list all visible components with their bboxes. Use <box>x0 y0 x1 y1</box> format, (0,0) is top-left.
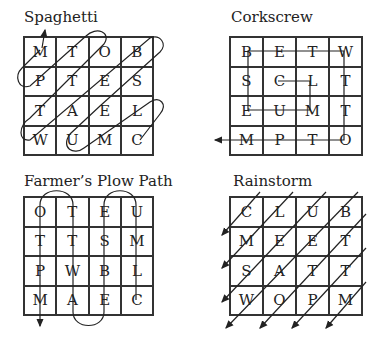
grid-cell: T <box>296 126 329 156</box>
grid-cell: T <box>56 227 88 257</box>
grid-cell: T <box>329 227 362 257</box>
grid-cell: C <box>121 286 153 316</box>
grid-cell: L <box>296 67 329 97</box>
grid-cell: C <box>121 126 153 156</box>
grid-cell: L <box>121 256 153 286</box>
grid-cell: U <box>263 96 296 126</box>
letter-grid-spaghetti: M T O B P T E S T A E L W U M C <box>23 36 154 156</box>
grid-cell: P <box>263 126 296 156</box>
grid-cell: S <box>230 256 263 286</box>
grid-cell: M <box>121 227 153 257</box>
grid-cell: A <box>56 96 88 126</box>
grid-cell: U <box>121 197 153 227</box>
puzzle-title-farmers-plow-path: Farmer’s Plow Path <box>24 172 173 190</box>
grid-cell: W <box>56 256 88 286</box>
grid-cell: M <box>296 96 329 126</box>
grid-cell: U <box>296 197 329 227</box>
grid-cell: O <box>89 37 121 67</box>
grid-cell: B <box>121 37 153 67</box>
grid-cell: M <box>329 286 362 316</box>
grid-cell: E <box>89 67 121 97</box>
grid-cell: B <box>230 37 263 67</box>
grid-cell: E <box>263 37 296 67</box>
grid-cell: C <box>230 197 263 227</box>
grid-cell: E <box>89 96 121 126</box>
grid-cell: M <box>24 37 56 67</box>
grid-cell: T <box>56 67 88 97</box>
grid-cell: O <box>329 126 362 156</box>
grid-cell: O <box>263 286 296 316</box>
grid-cell: M <box>230 227 263 257</box>
puzzle-title-spaghetti: Spaghetti <box>24 8 98 26</box>
grid-cell: T <box>329 96 362 126</box>
grid-cell: A <box>56 286 88 316</box>
grid-cell: E <box>263 227 296 257</box>
letter-grid-rainstorm: C L U B M E E T S A T T W O P M <box>229 196 363 316</box>
grid-cell: W <box>329 37 362 67</box>
grid-cell: E <box>230 96 263 126</box>
grid-cell: T <box>56 197 88 227</box>
grid-cell: T <box>329 67 362 97</box>
grid-cell: C <box>263 67 296 97</box>
grid-cell: E <box>89 286 121 316</box>
grid-cell: T <box>296 256 329 286</box>
grid-cell: M <box>89 126 121 156</box>
grid-cell: M <box>24 286 56 316</box>
grid-cell: T <box>329 256 362 286</box>
puzzle-title-rainstorm: Rainstorm <box>233 172 312 190</box>
grid-cell: L <box>121 96 153 126</box>
grid-cell: P <box>296 286 329 316</box>
grid-cell: T <box>24 227 56 257</box>
grid-cell: B <box>89 256 121 286</box>
letter-grid-farmers-plow-path: O T E U T T S M P W B L M A E C <box>23 196 154 316</box>
grid-cell: P <box>24 67 56 97</box>
grid-cell: U <box>56 126 88 156</box>
grid-cell: T <box>56 37 88 67</box>
grid-cell: O <box>24 197 56 227</box>
grid-cell: T <box>296 37 329 67</box>
grid-cell: L <box>263 197 296 227</box>
grid-cell: A <box>263 256 296 286</box>
grid-cell: W <box>24 126 56 156</box>
grid-cell: S <box>230 67 263 97</box>
grid-cell: S <box>89 227 121 257</box>
grid-cell: T <box>24 96 56 126</box>
grid-cell: P <box>24 256 56 286</box>
grid-cell: E <box>296 227 329 257</box>
grid-cell: M <box>230 126 263 156</box>
letter-grid-corkscrew: B E T W S C L T E U M T M P T O <box>229 36 363 156</box>
puzzle-title-corkscrew: Corkscrew <box>231 8 313 26</box>
grid-cell: W <box>230 286 263 316</box>
grid-cell: S <box>121 67 153 97</box>
grid-cell: B <box>329 197 362 227</box>
grid-cell: E <box>89 197 121 227</box>
